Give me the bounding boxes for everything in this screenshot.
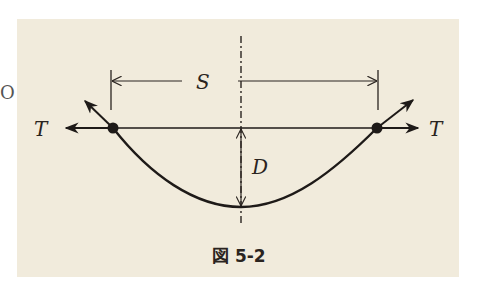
- left-tension-label: T: [34, 117, 49, 141]
- right-tangent-tension-arrow: [377, 100, 413, 128]
- left-tangent-tension-arrow: [85, 101, 113, 128]
- figure-caption: 図 5-2: [212, 246, 266, 266]
- sag-label: D: [251, 155, 268, 179]
- left-support-point: [108, 123, 119, 134]
- span-label: S: [196, 70, 210, 94]
- catenary-diagram: S D T T 図 5-2: [0, 0, 478, 294]
- right-tension-label: T: [429, 117, 444, 141]
- catenary-curve: [113, 128, 377, 207]
- right-support-point: [372, 123, 383, 134]
